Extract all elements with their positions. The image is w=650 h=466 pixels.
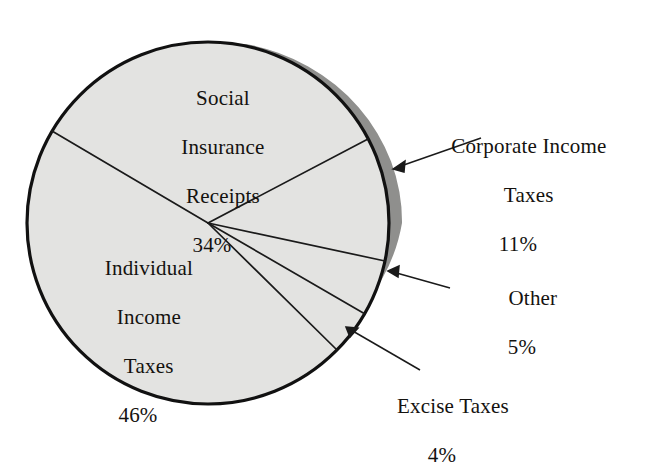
leader-arrow-other [388,266,399,277]
slice-label-excise-taxes: Excise Taxes 4% [342,370,542,466]
leader-arrow-corporate [393,161,405,172]
slice-label-line: Excise Taxes [397,394,509,418]
slice-percent-excise-taxes: 4% [342,443,542,466]
slice-percent-individual-income-taxes: 46% [48,403,228,427]
slice-percent-other: 5% [452,335,592,359]
slice-percent-corporate-income-taxes: 11% [408,232,628,256]
slice-label-individual-income-taxes: Individual Income Taxes 46% [48,232,228,466]
slice-label-line: Insurance [181,135,264,159]
slice-label-line: Income [117,305,181,329]
slice-label-line: Corporate Income [451,134,606,158]
leader-line-excise [351,330,420,370]
slice-label-line: Taxes [124,354,174,378]
slice-label-line: Taxes [504,183,554,207]
slice-label-line: Individual [105,256,193,280]
slice-label-line: Other [508,286,557,310]
slice-label-line: Receipts [186,184,260,208]
slice-label-line: Social [196,86,250,110]
